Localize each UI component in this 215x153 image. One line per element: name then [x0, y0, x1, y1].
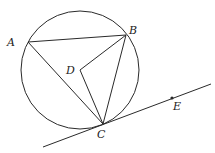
geometry-diagram: A B C D E [0, 0, 215, 153]
label-D: D [65, 64, 75, 77]
label-E: E [172, 100, 181, 113]
label-C: C [97, 128, 106, 141]
segment-AC [28, 42, 103, 124]
segment-AB [28, 35, 126, 42]
label-B: B [128, 24, 137, 37]
segment-DC [80, 70, 103, 124]
label-A: A [6, 36, 15, 49]
segment-DB [80, 35, 126, 70]
tangent-line [43, 84, 211, 147]
